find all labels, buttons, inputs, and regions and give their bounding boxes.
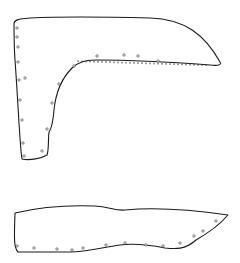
l-shaped-piece bbox=[14, 17, 221, 160]
stitch-mark bbox=[178, 64, 179, 66]
stitch-mark bbox=[130, 62, 131, 64]
stitch-mark bbox=[82, 61, 83, 63]
stitch-mark bbox=[146, 63, 147, 65]
stitch-mark bbox=[118, 62, 119, 64]
hole-icon bbox=[145, 244, 147, 246]
hole-icon bbox=[16, 27, 18, 29]
stitch-mark bbox=[134, 62, 135, 64]
hole-icon bbox=[24, 77, 26, 79]
stitch-mark bbox=[198, 64, 199, 66]
hole-icon bbox=[17, 61, 19, 63]
hole-icon bbox=[124, 242, 126, 244]
stitch-mark bbox=[106, 61, 107, 63]
hole-icon bbox=[58, 83, 60, 85]
stitch-mark bbox=[162, 63, 163, 65]
hole-icon bbox=[21, 119, 23, 121]
stitch-mark bbox=[90, 61, 91, 63]
hole-icon bbox=[162, 245, 164, 247]
stitch-mark bbox=[94, 61, 95, 63]
hole-icon bbox=[17, 46, 19, 48]
stitch-mark bbox=[150, 63, 151, 65]
stitch-mark bbox=[194, 64, 195, 66]
figure-canvas bbox=[0, 0, 240, 263]
hole-icon bbox=[123, 54, 125, 56]
hole-icon bbox=[41, 150, 43, 152]
hole-icon bbox=[16, 36, 18, 38]
stitch-mark bbox=[158, 63, 159, 65]
hole-icon bbox=[215, 220, 217, 222]
stitch-mark bbox=[182, 64, 183, 66]
stitch-mark bbox=[110, 61, 111, 63]
hole-icon bbox=[19, 99, 21, 101]
stitch-mark bbox=[78, 60, 79, 62]
stitch-mark bbox=[190, 64, 191, 66]
stitch-mark bbox=[142, 62, 143, 64]
stitch-mark bbox=[86, 61, 87, 63]
hole-icon bbox=[18, 79, 20, 81]
hole-icon bbox=[179, 242, 181, 244]
hole-icon bbox=[46, 128, 48, 130]
hole-icon bbox=[51, 102, 53, 104]
stitch-mark bbox=[166, 63, 167, 65]
hole-icon bbox=[82, 247, 84, 249]
stitch-mark bbox=[98, 61, 99, 63]
stitch-mark bbox=[102, 61, 103, 63]
hole-group bbox=[16, 27, 159, 157]
stitch-mark bbox=[138, 62, 139, 64]
stitch-mark bbox=[170, 63, 171, 65]
hole-icon bbox=[202, 230, 204, 232]
hole-icon bbox=[33, 247, 35, 249]
strip-piece-outline bbox=[14, 206, 228, 252]
hole-icon bbox=[137, 55, 139, 57]
hole-icon bbox=[73, 65, 75, 67]
strip-piece bbox=[14, 206, 228, 252]
hole-icon bbox=[105, 244, 107, 246]
stitch-mark bbox=[122, 62, 123, 64]
stitch-mark bbox=[174, 63, 175, 65]
stitch-mark bbox=[206, 64, 207, 66]
stitch-mark bbox=[202, 64, 203, 66]
stitch-mark bbox=[126, 62, 127, 64]
hole-icon bbox=[193, 235, 195, 237]
hole-icon bbox=[23, 155, 25, 157]
hole-icon bbox=[16, 245, 18, 247]
hole-icon bbox=[157, 60, 159, 62]
hole-icon bbox=[56, 248, 58, 250]
hole-icon bbox=[96, 55, 98, 57]
stitch-mark bbox=[186, 64, 187, 66]
stitch-mark bbox=[154, 63, 155, 65]
stitch-mark bbox=[114, 62, 115, 64]
hole-icon bbox=[71, 249, 73, 251]
hole-icon bbox=[22, 142, 24, 144]
l-shaped-piece-outline bbox=[14, 17, 221, 160]
